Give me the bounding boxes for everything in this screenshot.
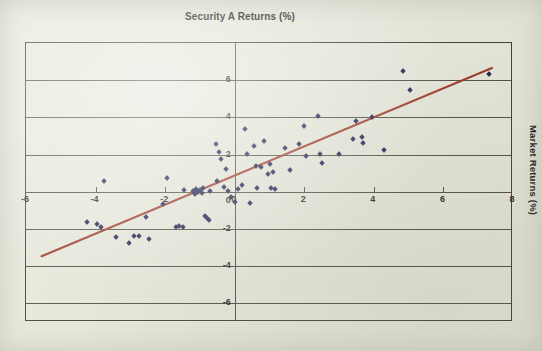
x-tick-mark-4 <box>374 187 375 192</box>
data-point <box>317 151 323 157</box>
data-point <box>401 68 407 74</box>
y-tick-label-4: 4 <box>226 111 233 121</box>
data-point <box>486 71 492 77</box>
data-point <box>244 151 250 157</box>
plot-area <box>25 42 512 321</box>
x-tick-mark-6 <box>443 187 444 192</box>
x-tick-label-6: 6 <box>440 194 445 204</box>
data-point <box>164 175 170 181</box>
data-point <box>350 136 356 142</box>
data-point <box>336 151 342 157</box>
x-tick-label-2: 2 <box>301 194 306 204</box>
x-tick-mark--2 <box>165 187 166 192</box>
data-point <box>213 142 219 148</box>
data-point <box>242 127 248 133</box>
gridline-y-4 <box>26 117 511 118</box>
data-point <box>143 214 149 220</box>
y-tick-label-2: 2 <box>226 149 233 159</box>
data-point <box>267 161 273 167</box>
chart-figure: Security A Returns (%) Market Returns (%… <box>0 0 542 351</box>
data-point <box>359 134 365 140</box>
gridline-y-2 <box>26 155 511 156</box>
data-point <box>288 168 294 174</box>
data-point <box>381 147 387 153</box>
data-point <box>354 118 360 124</box>
y-tick-label--2: -2 <box>223 223 233 233</box>
y-tick-label-0: 0 <box>226 195 233 205</box>
y-axis-title: Market Returns (%) <box>528 125 539 215</box>
data-point <box>199 190 205 196</box>
data-point <box>126 240 132 246</box>
data-point <box>208 188 214 194</box>
data-point <box>282 145 288 151</box>
data-point <box>84 220 90 226</box>
data-point <box>251 143 257 149</box>
data-point <box>147 236 153 242</box>
x-tick-label--4: -4 <box>91 194 99 204</box>
y-tick-label--4: -4 <box>223 260 233 270</box>
data-point <box>261 138 267 144</box>
data-point <box>258 164 264 170</box>
gridline-y-0 <box>26 192 511 193</box>
data-point <box>218 156 224 162</box>
gridline-y--6 <box>26 303 511 304</box>
x-tick-label--2: -2 <box>160 194 168 204</box>
data-point <box>408 87 414 93</box>
data-point <box>114 235 120 241</box>
chart-title: Security A Returns (%) <box>0 11 480 22</box>
x-tick-label-4: 4 <box>370 194 375 204</box>
zero-vertical-axis <box>235 43 236 320</box>
data-point <box>223 166 229 172</box>
gridline-y--4 <box>26 266 511 267</box>
data-point <box>214 178 220 184</box>
data-point <box>361 140 367 146</box>
gridline-y--2 <box>26 229 511 230</box>
data-point <box>303 153 309 159</box>
data-point <box>254 185 260 191</box>
x-tick-label--6: -6 <box>21 194 29 204</box>
x-tick-mark--4 <box>96 187 97 192</box>
x-tick-mark-2 <box>304 187 305 192</box>
data-point <box>201 185 207 191</box>
data-point <box>206 217 212 223</box>
y-tick-label--6: -6 <box>223 297 233 307</box>
data-point <box>270 169 276 175</box>
data-point <box>319 160 325 166</box>
data-point <box>369 115 375 121</box>
y-tick-label-6: 6 <box>226 74 233 84</box>
data-point <box>136 234 142 240</box>
regression-trendline <box>26 43 511 320</box>
data-point <box>101 178 107 184</box>
data-point <box>296 142 302 148</box>
data-point <box>225 188 231 194</box>
data-point <box>301 123 307 129</box>
data-point <box>248 200 254 206</box>
gridline-y-6 <box>26 80 511 81</box>
x-tick-label-8: 8 <box>509 194 514 204</box>
